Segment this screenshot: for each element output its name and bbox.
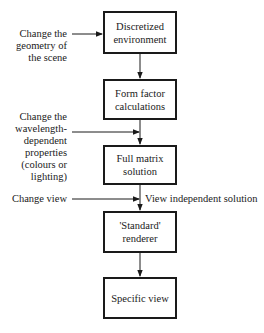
node-specific-view: Specific view xyxy=(103,277,177,319)
node-label: Full matrix solution xyxy=(117,152,164,178)
node-standard-renderer: 'Standard' renderer xyxy=(103,211,177,253)
input-label-change-view: Change view xyxy=(0,193,67,205)
node-label: 'Standard' renderer xyxy=(119,219,160,245)
node-form-factor-calculations: Form factor calculations xyxy=(103,79,177,120)
node-label: Specific view xyxy=(111,292,168,305)
node-discretized-environment: Discretized environment xyxy=(103,11,177,54)
node-label: Discretized environment xyxy=(113,20,166,46)
input-label-change-geometry: Change the geometry of the scene xyxy=(0,28,67,64)
node-full-matrix-solution: Full matrix solution xyxy=(103,145,177,185)
input-label-change-wavelength: Change the wavelength- dependent propert… xyxy=(0,111,67,183)
node-label: Form factor calculations xyxy=(115,87,165,113)
annotation-view-independent-solution: View independent solution xyxy=(145,193,264,205)
